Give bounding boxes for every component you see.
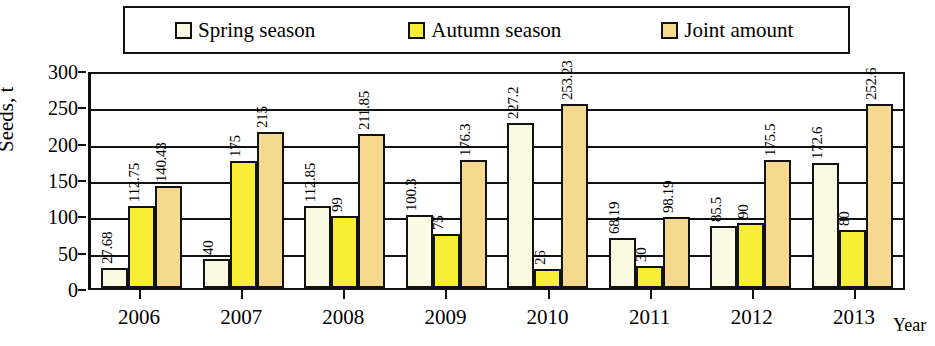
x-tick-cell [292,290,394,304]
x-tick-label: 2006 [88,305,190,335]
x-tick-mark [343,290,345,299]
bar-value-label: 90 [736,204,751,218]
x-tick-cell [190,290,292,304]
bar: 253.23 [561,104,588,288]
x-tick-mark [139,290,141,299]
bars-layer: 27.68112.75140.4340175215112.8599211.851… [91,74,903,288]
x-tick-label: 2007 [190,305,292,335]
legend-item-joint-amount: Joint amount [661,18,793,43]
bar: 68.19 [609,238,636,288]
bar-value-label: 80 [837,211,852,225]
bar-value-label: 98.19 [661,180,676,212]
x-tick-cell [394,290,496,304]
x-tick-cell [701,290,803,304]
y-tick-mark [78,71,86,73]
y-tick-label: 150 [48,171,78,191]
bar-value-label: 30 [634,248,649,262]
bar-value-label: 172.6 [810,126,825,158]
x-tick-cell [497,290,599,304]
legend-item-spring-season: Spring season [175,18,315,43]
bar-group: 40175215 [193,74,295,288]
bar-group: 112.8599211.85 [294,74,396,288]
x-tick-mark [752,290,754,299]
y-tick-label: 250 [48,98,78,118]
bar-value-label: 227.2 [506,87,521,119]
bar-group: 85.590175.5 [700,74,802,288]
x-tick-mark [548,290,550,299]
bar: 98.19 [663,217,690,288]
bar-value-label: 100.3 [404,179,419,211]
y-tick-mark [78,180,86,182]
x-tick-cell [803,290,905,304]
bar: 172.6 [812,163,839,288]
y-tick-label: 0 [68,280,78,300]
bar-value-label: 175.5 [763,124,778,156]
bar-value-label: 26 [533,251,548,265]
legend-item-autumn-season: Autumn season [408,18,561,43]
bar: 176.3 [460,160,487,288]
bar: 175 [230,161,257,288]
bar-value-label: 253.23 [560,61,575,100]
y-tick-mark [78,289,86,291]
bar: 215 [257,132,284,288]
bar-value-label: 99 [330,198,345,212]
bar-value-label: 112.75 [127,163,142,202]
bar: 140.43 [155,186,182,288]
bar: 90 [737,223,764,288]
y-axis-title: Seeds, t [0,87,19,152]
bar-group: 100.375176.3 [396,74,498,288]
x-axis-ticks [88,290,905,304]
y-axis-ticks: 050100150200250300 [30,60,86,300]
legend-swatch-joint-amount [661,22,678,39]
bar-group: 68.193098.19 [599,74,701,288]
bar: 100.3 [406,215,433,288]
legend-label-joint-amount: Joint amount [684,18,793,43]
x-tick-label: 2013 [803,305,905,335]
bar-value-label: 140.43 [154,143,169,182]
bar-value-label: 75 [431,215,446,229]
legend-label-autumn-season: Autumn season [431,18,561,43]
bar: 211.85 [358,134,385,288]
bar: 252.6 [866,104,893,288]
x-tick-mark [445,290,447,299]
x-tick-cell [599,290,701,304]
bar-group: 227.226253.23 [497,74,599,288]
x-tick-mark [241,290,243,299]
y-tick-mark [78,107,86,109]
x-tick-label: 2009 [394,305,496,335]
bar: 112.75 [128,206,155,288]
bar: 75 [433,234,460,289]
bar: 40 [203,259,230,288]
y-tick-label: 100 [48,207,78,227]
legend-swatch-autumn-season [408,22,425,39]
bar: 80 [839,230,866,288]
bar: 99 [331,216,358,288]
bar-value-label: 176.3 [458,124,473,156]
bar-value-label: 112.85 [303,163,318,202]
bar: 26 [534,269,561,288]
bar-value-label: 40 [201,241,216,255]
bar-value-label: 175 [228,135,243,157]
y-tick-label: 300 [48,62,78,82]
bar-value-label: 85.5 [709,197,724,222]
x-tick-mark [854,290,856,299]
bar-value-label: 68.19 [607,202,622,234]
bar: 27.68 [101,268,128,288]
bar-value-label: 215 [255,106,270,128]
plot-area: 27.68112.75140.4340175215112.8599211.851… [88,72,905,290]
x-tick-label: 2008 [292,305,394,335]
y-tick-mark [78,253,86,255]
bar-value-label: 252.6 [864,68,879,100]
bar: 227.2 [507,123,534,288]
x-tick-label: 2011 [599,305,701,335]
x-axis-title: Year [893,315,926,336]
x-tick-label: 2010 [497,305,599,335]
bar: 112.85 [304,206,331,288]
y-tick-label: 200 [48,135,78,155]
chart-legend: Spring season Autumn season Joint amount [123,6,850,54]
x-tick-mark [650,290,652,299]
legend-label-spring-season: Spring season [198,18,315,43]
bar-value-label: 27.68 [100,232,115,264]
x-tick-cell [88,290,190,304]
bar: 175.5 [764,160,791,288]
